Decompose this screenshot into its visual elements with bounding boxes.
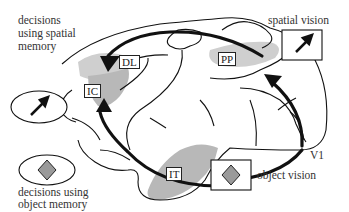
region-ic: IC [84,84,101,98]
region-pp: PP [218,52,236,66]
spatial-vision-label: spatial vision [268,14,329,26]
object-memory-label: decisions using object memory [18,186,89,210]
spatial-memory-label: decisions using spatial memory [18,14,76,53]
region-it: IT [166,167,182,181]
object-vision-label: object vision [257,169,316,181]
region-v1: V1 [310,149,324,161]
region-dl: DL [119,55,140,69]
pathway-v1-to-pp [272,82,302,146]
arrowhead-pp [264,74,282,88]
brain-diagram: decisions using spatial memory decisions… [0,0,349,212]
